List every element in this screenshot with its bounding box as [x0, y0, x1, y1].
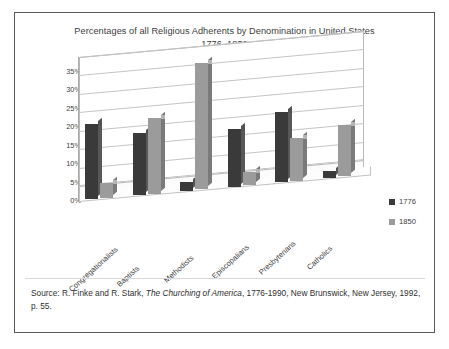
legend-item-1776[interactable]: 1776 [389, 197, 416, 206]
bar-front-face [228, 129, 241, 187]
source-divider [25, 278, 425, 279]
legend-label-1776: 1776 [399, 197, 416, 206]
legend-swatch-1850 [389, 219, 395, 225]
bar-presbyterians-1776 [275, 112, 288, 182]
chart-figure-card: Percentages of all Religious Adherents b… [14, 12, 435, 333]
bar-top-face [161, 115, 165, 119]
bar-methodists-1776 [180, 182, 193, 191]
bar-baptists-1850 [148, 118, 161, 194]
bar-top-face [113, 180, 117, 184]
bar-side-face [161, 112, 165, 191]
y-axis-tick-labels: 0%5%10%15%20%25%30%35% [45, 57, 81, 192]
bar-baptists-1776 [133, 133, 146, 195]
x-label-presbyterians: Presbyterians [257, 238, 298, 276]
bar-top-face [288, 109, 292, 113]
source-caption: Source: R. Finke and R. Stark, The Churc… [31, 287, 423, 313]
bar-front-face [275, 112, 288, 182]
bar-episcopalians-1776 [228, 129, 241, 187]
x-label-catholics: Catholics [305, 244, 334, 272]
bar-top-face [256, 169, 260, 173]
bar-congregationalists-1850 [100, 183, 113, 198]
bar-top-face [241, 126, 245, 130]
bar-front-face [195, 63, 208, 189]
bar-catholics-1850 [338, 125, 351, 176]
bar-presbyterians-1850 [290, 138, 303, 181]
bar-top-face [351, 122, 355, 126]
legend-item-1850[interactable]: 1850 [389, 217, 416, 226]
x-label-baptists: Baptists [115, 264, 141, 289]
bar-front-face [338, 125, 351, 176]
legend-swatch-1776 [389, 199, 395, 205]
bar-top-face [98, 121, 102, 125]
x-label-episcopalians: Episcopalians [210, 242, 251, 280]
bar-congregationalists-1776 [85, 124, 98, 199]
bar-top-face [303, 135, 307, 139]
bar-side-face [208, 57, 212, 186]
bar-catholics-1776 [323, 171, 336, 178]
bar-front-face [180, 182, 193, 191]
chart-legend: 17761850 [389, 197, 416, 237]
bar-front-face [243, 172, 256, 185]
legend-label-1850: 1850 [399, 217, 416, 226]
chart-bars [79, 57, 379, 217]
bar-front-face [290, 138, 303, 181]
bar-top-face [208, 60, 212, 64]
bar-front-face [85, 124, 98, 199]
source-book-title: The Churching of America [146, 288, 242, 298]
chart-plot-area: 0%5%10%15%20%25%30%35% Congregationalist… [15, 57, 436, 267]
bar-front-face [100, 183, 113, 198]
bar-methodists-1850 [195, 63, 208, 189]
bar-front-face [148, 118, 161, 194]
source-prefix: Source: R. Finke and R. Stark, [31, 288, 146, 298]
x-label-methodists: Methodists [162, 254, 195, 285]
bar-front-face [133, 133, 146, 195]
bar-side-face [351, 119, 355, 173]
bar-episcopalians-1850 [243, 172, 256, 185]
bar-front-face [323, 171, 336, 178]
